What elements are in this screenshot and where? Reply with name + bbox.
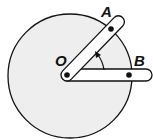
- rotating-arms-diagram: O A B: [0, 0, 153, 139]
- point-b-dot: [126, 72, 132, 78]
- pivot-dot: [64, 72, 70, 78]
- label-a: A: [100, 3, 112, 20]
- label-b: B: [134, 52, 145, 69]
- label-o: O: [55, 52, 67, 69]
- point-a-dot: [108, 26, 114, 32]
